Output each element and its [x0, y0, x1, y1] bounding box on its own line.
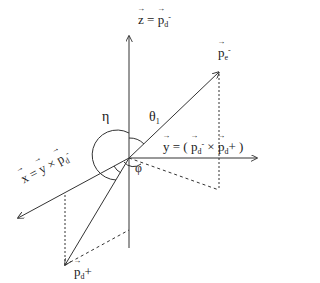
pe-plane-projection: [129, 158, 219, 190]
phi-label: φ: [135, 162, 142, 174]
eta-arc: [92, 130, 129, 180]
theta-arc: [129, 138, 144, 144]
pd-plus-vector: [65, 158, 129, 265]
pd-plus-label: pd+: [74, 265, 92, 281]
pe-minus-label: pe-: [218, 46, 231, 62]
y-axis-label: y = ( pd- × pd+ ): [163, 140, 243, 156]
theta-label: θ1: [149, 110, 160, 126]
eta-label: η: [102, 110, 109, 124]
z-axis-label: z = pd-: [138, 13, 171, 29]
small-angle-arc: [114, 166, 121, 173]
